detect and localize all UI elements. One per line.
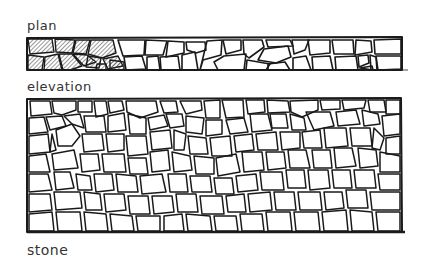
plan-view	[27, 37, 408, 70]
stone-sketch	[0, 0, 433, 276]
elevation-view	[27, 98, 405, 232]
